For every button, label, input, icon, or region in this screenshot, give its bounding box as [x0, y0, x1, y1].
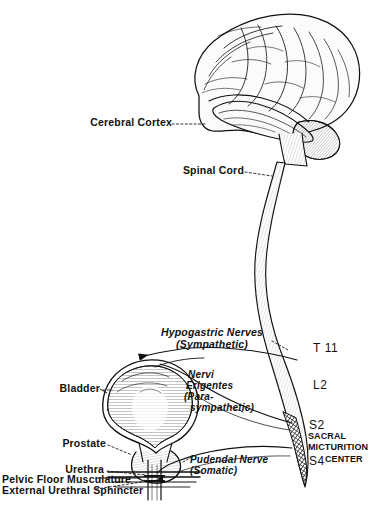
- label-external-urethral-sphincter: External Urethral Sphincter: [2, 485, 143, 496]
- label-level-l2: L2: [313, 379, 328, 392]
- label-level-t11: T 11: [313, 342, 338, 355]
- label-sacral: SACRAL: [308, 432, 346, 442]
- label-micturition: MICTURITION: [308, 443, 368, 453]
- label-center: CENTER: [325, 455, 363, 465]
- label-hypogastric-nerves: Hypogastric Nerves: [148, 327, 276, 338]
- spinal-cord-illustration: [255, 162, 308, 487]
- label-prostate: Prostate: [6, 438, 106, 449]
- label-bladder: Bladder: [6, 383, 100, 394]
- label-level-s2: S2: [309, 419, 325, 432]
- label-parasympathetic-close: sympathetic): [190, 403, 254, 414]
- label-pudendal-somatic: (Somatic): [190, 466, 237, 477]
- label-spinal-cord: Spinal Cord: [120, 165, 244, 176]
- micturition-neuroanatomy-figure: Cerebral Cortex Spinal Cord Hypogastric …: [0, 0, 372, 505]
- label-level-s4: S4: [309, 455, 325, 468]
- label-cerebral-cortex: Cerebral Cortex: [10, 117, 172, 128]
- brain-illustration: [195, 14, 360, 166]
- label-hypogastric-sympathetic: (Sympathetic): [148, 339, 276, 350]
